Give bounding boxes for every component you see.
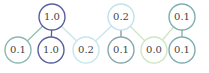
bottom-node-label: 1.0 (36, 43, 66, 57)
top-node-label: 1.0 (37, 10, 67, 24)
bottom-node-label: 0.2 (71, 43, 101, 57)
bottom-node-label: 0.1 (106, 43, 136, 57)
top-node-label: 0.2 (106, 10, 136, 24)
bottom-node-label: 0.1 (167, 43, 197, 57)
bottom-node-label: 0.0 (139, 43, 169, 57)
top-node-label: 0.1 (167, 10, 197, 24)
bottom-node-label: 0.1 (3, 43, 33, 57)
